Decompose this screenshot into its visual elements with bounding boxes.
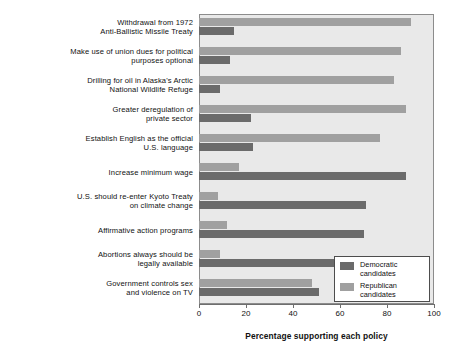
x-axis-tick-label: 100 [419, 309, 449, 318]
bar-group [199, 217, 434, 246]
x-axis-tick-label: 60 [325, 309, 355, 318]
bar-democratic [199, 230, 364, 238]
legend-item-republican: Republican candidates [340, 282, 424, 299]
bar-republican [199, 192, 218, 200]
bar-group [199, 188, 434, 217]
bar-republican [199, 221, 227, 229]
category-label-line2: on climate change [130, 201, 193, 210]
category-label: Drilling for oil in Alaska's ArcticNatio… [0, 76, 193, 95]
x-axis-tick [199, 304, 200, 308]
category-label-line1: U.S. should re-enter Kyoto Treaty [77, 192, 193, 201]
bar-republican [199, 105, 406, 113]
x-axis-title: Percentage supporting each policy [199, 331, 434, 341]
bar-republican [199, 163, 239, 171]
category-label: Affirmative action programs [0, 226, 193, 235]
x-axis-line [199, 304, 434, 305]
category-label-line2: legally available [138, 259, 193, 268]
category-label-line2: U.S. language [144, 143, 193, 152]
legend-label-republican-line2: candidates [360, 290, 396, 299]
x-axis-tick [387, 304, 388, 308]
bar-democratic [199, 172, 406, 180]
x-axis-tick [293, 304, 294, 308]
bar-group [199, 159, 434, 188]
category-label: Make use of union dues for politicalpurp… [0, 47, 193, 66]
bar-democratic [199, 288, 319, 296]
bar-democratic [199, 85, 220, 93]
category-label-line2: private sector [146, 114, 193, 123]
category-label-line1: Withdrawal from 1972 [117, 18, 193, 27]
bar-republican [199, 279, 312, 287]
bar-democratic [199, 143, 253, 151]
category-label: Increase minimum wage [0, 168, 193, 177]
legend-label-democratic: Democratic candidates [360, 261, 397, 278]
bar-group [199, 14, 434, 43]
bar-democratic [199, 27, 234, 35]
x-axis-tick-label: 20 [231, 309, 261, 318]
bar-group [199, 43, 434, 72]
bar-democratic [199, 56, 230, 64]
category-label-line1: Greater deregulation of [113, 105, 193, 114]
bar-chart: Withdrawal from 1972Anti-Ballistic Missi… [0, 0, 457, 359]
x-axis-tick [340, 304, 341, 308]
bar-republican [199, 47, 401, 55]
bar-group [199, 101, 434, 130]
legend-label-republican: Republican candidates [360, 282, 397, 299]
x-axis-tick-label: 80 [372, 309, 402, 318]
bar-democratic [199, 201, 366, 209]
bar-republican [199, 250, 220, 258]
category-label-line1: Make use of union dues for political [70, 47, 193, 56]
category-label: Government controls sexand violence on T… [0, 279, 193, 298]
category-label-line1: Government controls sex [106, 279, 193, 288]
category-label: Greater deregulation ofprivate sector [0, 105, 193, 124]
bar-democratic [199, 114, 251, 122]
category-label-line2: and violence on TV [126, 288, 193, 297]
bar-republican [199, 134, 380, 142]
bar-republican [199, 76, 394, 84]
category-label-line2: National Wildlife Refuge [110, 85, 193, 94]
category-label-line2: Anti-Ballistic Missile Treaty [100, 27, 193, 36]
x-axis-tick [434, 304, 435, 308]
category-label: Abortions always should belegally availa… [0, 250, 193, 269]
category-label: U.S. should re-enter Kyoto Treatyon clim… [0, 192, 193, 211]
category-label-line1: Establish English as the official [86, 134, 193, 143]
bar-republican [199, 18, 411, 26]
chart-legend: Democratic candidates Republican candida… [334, 256, 430, 302]
x-axis-tick-label: 0 [184, 309, 214, 318]
category-label-line1: Increase minimum wage [109, 168, 193, 177]
category-label-line1: Drilling for oil in Alaska's Arctic [87, 76, 193, 85]
legend-label-democratic-line2: candidates [360, 269, 396, 278]
legend-swatch-democratic-icon [340, 262, 354, 270]
category-label: Withdrawal from 1972Anti-Ballistic Missi… [0, 18, 193, 37]
category-label-line2: purposes optional [131, 56, 193, 65]
category-label-line1: Affirmative action programs [98, 226, 193, 235]
x-axis-tick [246, 304, 247, 308]
category-label-list: Withdrawal from 1972Anti-Ballistic Missi… [0, 14, 193, 304]
category-label-line1: Abortions always should be [98, 250, 193, 259]
bar-group [199, 130, 434, 159]
x-axis-tick-label: 40 [278, 309, 308, 318]
category-label: Establish English as the officialU.S. la… [0, 134, 193, 153]
legend-item-democratic: Democratic candidates [340, 261, 424, 278]
legend-swatch-republican-icon [340, 283, 354, 291]
bar-group [199, 72, 434, 101]
